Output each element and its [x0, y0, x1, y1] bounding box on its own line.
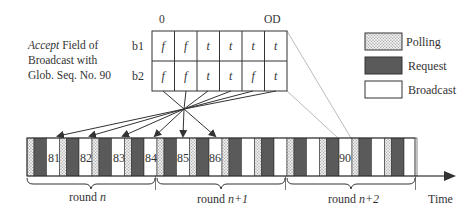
time-axis-label: Time — [428, 192, 453, 207]
seq-label-90: 90 — [339, 151, 351, 166]
request-slot — [327, 138, 340, 176]
legend — [365, 33, 402, 98]
seq-label-86: 86 — [209, 151, 221, 166]
request-slot — [294, 138, 307, 176]
polling-slot — [157, 138, 164, 176]
request-slot — [99, 138, 112, 176]
seq-label-83: 83 — [113, 151, 125, 166]
polling-slot — [287, 138, 294, 176]
seq-label-85: 85 — [177, 151, 189, 166]
polling-slot — [320, 138, 327, 176]
polling-slot — [60, 138, 67, 176]
polling-slot — [125, 138, 132, 176]
request-slot — [262, 138, 275, 176]
broadcast-slot — [372, 138, 385, 176]
polling-slot — [92, 138, 99, 176]
fan-lines — [163, 91, 276, 109]
polling-slot — [190, 138, 197, 176]
polling-slot — [27, 138, 34, 176]
accept-field-caption: Accept Field of Broadcast with Glob. Seq… — [28, 38, 111, 83]
seq-label-81: 81 — [48, 151, 60, 166]
request-slot — [229, 138, 242, 176]
protocol-diagram: fftttt ffttft — [0, 0, 475, 215]
broadcast-slot — [242, 138, 255, 176]
request-slot — [197, 138, 210, 176]
legend-polling-label: Polling — [406, 35, 441, 50]
request-slot — [132, 138, 145, 176]
caption-line2: Broadcast with — [28, 53, 111, 68]
caption-line3: Glob. Seq. No. 90 — [28, 68, 111, 83]
request-slot — [67, 138, 80, 176]
legend-polling-swatch — [365, 33, 402, 50]
row-label-b1: b1 — [132, 39, 144, 54]
col-label-last: OD — [264, 13, 281, 25]
request-slot — [359, 138, 372, 176]
caption-line1: Field of — [59, 39, 98, 51]
request-slot — [34, 138, 47, 176]
polling-slot — [222, 138, 229, 176]
arrows — [58, 109, 215, 136]
guide-lines — [287, 31, 351, 138]
caption-italic: Accept — [28, 39, 59, 51]
polling-slot — [255, 138, 262, 176]
round-braces — [27, 178, 415, 189]
round-label-n-plus-2: round n+2 — [328, 192, 379, 207]
polling-slot — [352, 138, 359, 176]
legend-broadcast-swatch — [365, 81, 402, 98]
legend-broadcast-label: Broadcast — [408, 83, 456, 98]
seq-label-84: 84 — [145, 151, 157, 166]
legend-request-label: Request — [408, 59, 447, 74]
request-slot — [164, 138, 177, 176]
round-label-n-plus-1: round n+1 — [197, 192, 248, 207]
accept-field-table: fftttt ffttft — [152, 31, 287, 91]
request-slot — [392, 138, 405, 176]
polling-slot — [385, 138, 392, 176]
col-label-first: 0 — [159, 13, 165, 25]
round-label-n: round n — [69, 190, 106, 205]
row-label-b2: b2 — [132, 69, 144, 84]
legend-request-swatch — [365, 57, 402, 74]
broadcast-slot — [274, 138, 287, 176]
seq-label-82: 82 — [80, 151, 92, 166]
broadcast-slot — [307, 138, 320, 176]
